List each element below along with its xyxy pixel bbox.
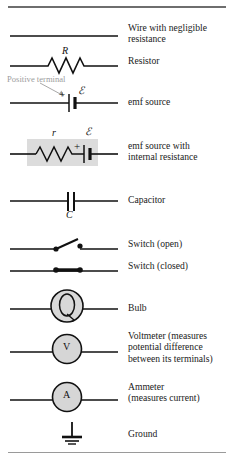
switch-open-symbol <box>0 232 126 258</box>
label-bulb: Bulb <box>128 302 232 313</box>
label-line: Switch (closed) <box>128 260 232 271</box>
resistor-value-label: R <box>62 45 68 56</box>
bottom-divider-rule <box>8 452 226 453</box>
label-emf-source: emf source <box>128 96 232 107</box>
label-line: Switch (open) <box>128 238 232 249</box>
label-wire: Wire with negligible resistance <box>128 22 232 45</box>
row-voltmeter: V Voltmeter (measures potential differen… <box>0 330 234 374</box>
switch-closed-symbol <box>0 258 126 284</box>
row-resistor: R Resistor <box>0 46 234 76</box>
bulb-symbol <box>0 284 126 328</box>
row-switch-open: Switch (open) <box>0 232 234 258</box>
label-line: emf source with <box>128 140 232 151</box>
label-line: Wire with negligible <box>128 22 232 33</box>
row-ammeter: A Ammeter (measures current) <box>0 378 234 420</box>
label-line: resistance <box>128 33 232 44</box>
label-line: Ground <box>128 428 232 439</box>
emf-plus-sign-2: + <box>74 140 80 152</box>
resistor-symbol: R <box>0 46 126 76</box>
ammeter-glyph-label: A <box>63 389 70 400</box>
capacitor-symbol: C <box>0 188 126 222</box>
label-line: emf source <box>128 96 232 107</box>
label-line: internal resistance <box>128 151 232 162</box>
label-line: Voltmeter (measures <box>128 330 232 341</box>
row-ground: Ground <box>0 420 234 450</box>
positive-terminal-annotation: Positive terminal <box>7 74 65 84</box>
capacitor-value-label: C <box>66 209 73 220</box>
label-voltmeter: Voltmeter (measures potential difference… <box>128 330 232 364</box>
label-line: between its terminals) <box>128 353 232 364</box>
label-capacitor: Capacitor <box>128 194 232 205</box>
emf-source-internal-resistance-symbol: r ℰ + <box>0 130 126 176</box>
emf-source-symbol: + ℰ Positive terminal <box>0 74 126 114</box>
row-emf-internal-resistance: r ℰ + emf source with internal resistanc… <box>0 130 234 176</box>
label-line: Bulb <box>128 302 232 313</box>
label-ammeter: Ammeter (measures current) <box>128 381 232 404</box>
emf-value-label-2: ℰ <box>85 125 91 137</box>
row-capacitor: C Capacitor <box>0 188 234 222</box>
internal-resistance-value-label: r <box>52 127 56 138</box>
label-line: (measures current) <box>128 392 232 403</box>
emf-value-label: ℰ <box>78 84 84 96</box>
voltmeter-glyph-label: V <box>63 341 70 352</box>
figure-canvas: Wire with negligible resistance R Resist… <box>0 0 234 462</box>
row-switch-closed: Switch (closed) <box>0 258 234 284</box>
label-switch-closed: Switch (closed) <box>128 260 232 271</box>
label-resistor: Resistor <box>128 55 232 66</box>
emf-plus-sign: + <box>59 88 65 100</box>
label-switch-open: Switch (open) <box>128 238 232 249</box>
row-bulb: Bulb <box>0 284 234 328</box>
label-line: Capacitor <box>128 194 232 205</box>
top-divider-rule <box>8 6 226 8</box>
ground-symbol <box>0 420 126 450</box>
row-emf-source: + ℰ Positive terminal emf source <box>0 74 234 114</box>
ammeter-symbol: A <box>0 378 126 420</box>
label-line: potential difference <box>128 341 232 352</box>
label-line: Resistor <box>128 55 232 66</box>
label-line: Ammeter <box>128 381 232 392</box>
voltmeter-symbol: V <box>0 330 126 374</box>
label-ground: Ground <box>128 428 232 439</box>
label-emf-internal-resistance: emf source with internal resistance <box>128 140 232 163</box>
